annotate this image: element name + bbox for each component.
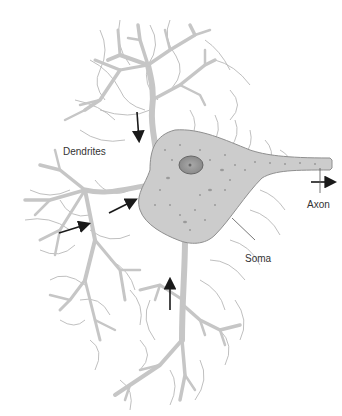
top-dendrite-arrow bbox=[137, 112, 139, 140]
soma-leader-line bbox=[232, 218, 255, 240]
label-axon: Axon bbox=[307, 199, 330, 210]
left-dendrite-arrow-2 bbox=[109, 200, 135, 213]
soma-body bbox=[139, 130, 332, 244]
label-dendrites: Dendrites bbox=[63, 146, 106, 157]
label-soma: Soma bbox=[245, 253, 271, 264]
neuron-diagram bbox=[0, 0, 342, 416]
